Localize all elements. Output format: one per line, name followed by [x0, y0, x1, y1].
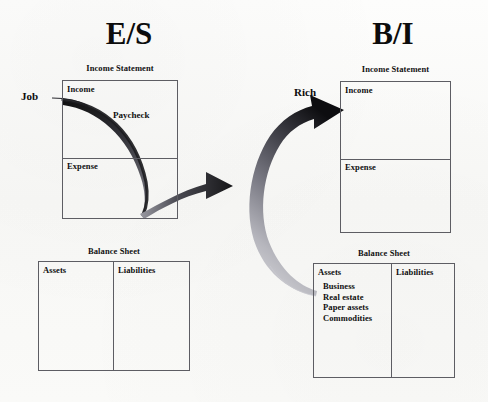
left-income-statement-caption: Income Statement	[62, 63, 178, 73]
right-panel-title: B/I	[348, 16, 438, 52]
left-income-statement-box: Income Expense	[62, 80, 178, 219]
left-assets-label: Assets	[43, 265, 66, 275]
right-income-expense-divider	[341, 159, 450, 160]
right-income-statement-box: Income Expense	[340, 81, 451, 233]
left-panel-title: E/S	[84, 16, 174, 52]
left-expense-label: Expense	[67, 161, 98, 171]
paycheck-label: Paycheck	[113, 110, 150, 120]
right-balance-sheet-box: Assets Liabilities Business Real estate …	[313, 263, 455, 378]
right-balance-sheet-caption: Balance Sheet	[313, 248, 455, 258]
right-income-statement-caption: Income Statement	[340, 64, 451, 74]
asset-item: Commodities	[323, 313, 372, 324]
right-balance-sheet-divider	[391, 264, 392, 377]
right-assets-label: Assets	[318, 267, 341, 277]
left-income-expense-divider	[63, 158, 177, 159]
left-balance-sheet-box: Assets Liabilities	[38, 261, 190, 371]
rich-label: Rich	[294, 86, 316, 98]
left-balance-sheet-divider	[113, 262, 114, 370]
asset-item: Paper assets	[323, 302, 372, 313]
left-income-label: Income	[67, 84, 95, 94]
right-liabilities-label: Liabilities	[396, 267, 433, 277]
asset-item: Business	[323, 281, 372, 292]
left-liabilities-label: Liabilities	[118, 265, 155, 275]
right-income-label: Income	[345, 85, 373, 95]
right-expense-label: Expense	[345, 162, 376, 172]
asset-item: Real estate	[323, 292, 372, 303]
diagram-canvas: E/S Income Statement Income Expense Payc…	[0, 0, 488, 402]
right-assets-item-list: Business Real estate Paper assets Commod…	[323, 281, 372, 323]
job-label: Job	[21, 90, 38, 102]
left-balance-sheet-caption: Balance Sheet	[38, 246, 190, 256]
